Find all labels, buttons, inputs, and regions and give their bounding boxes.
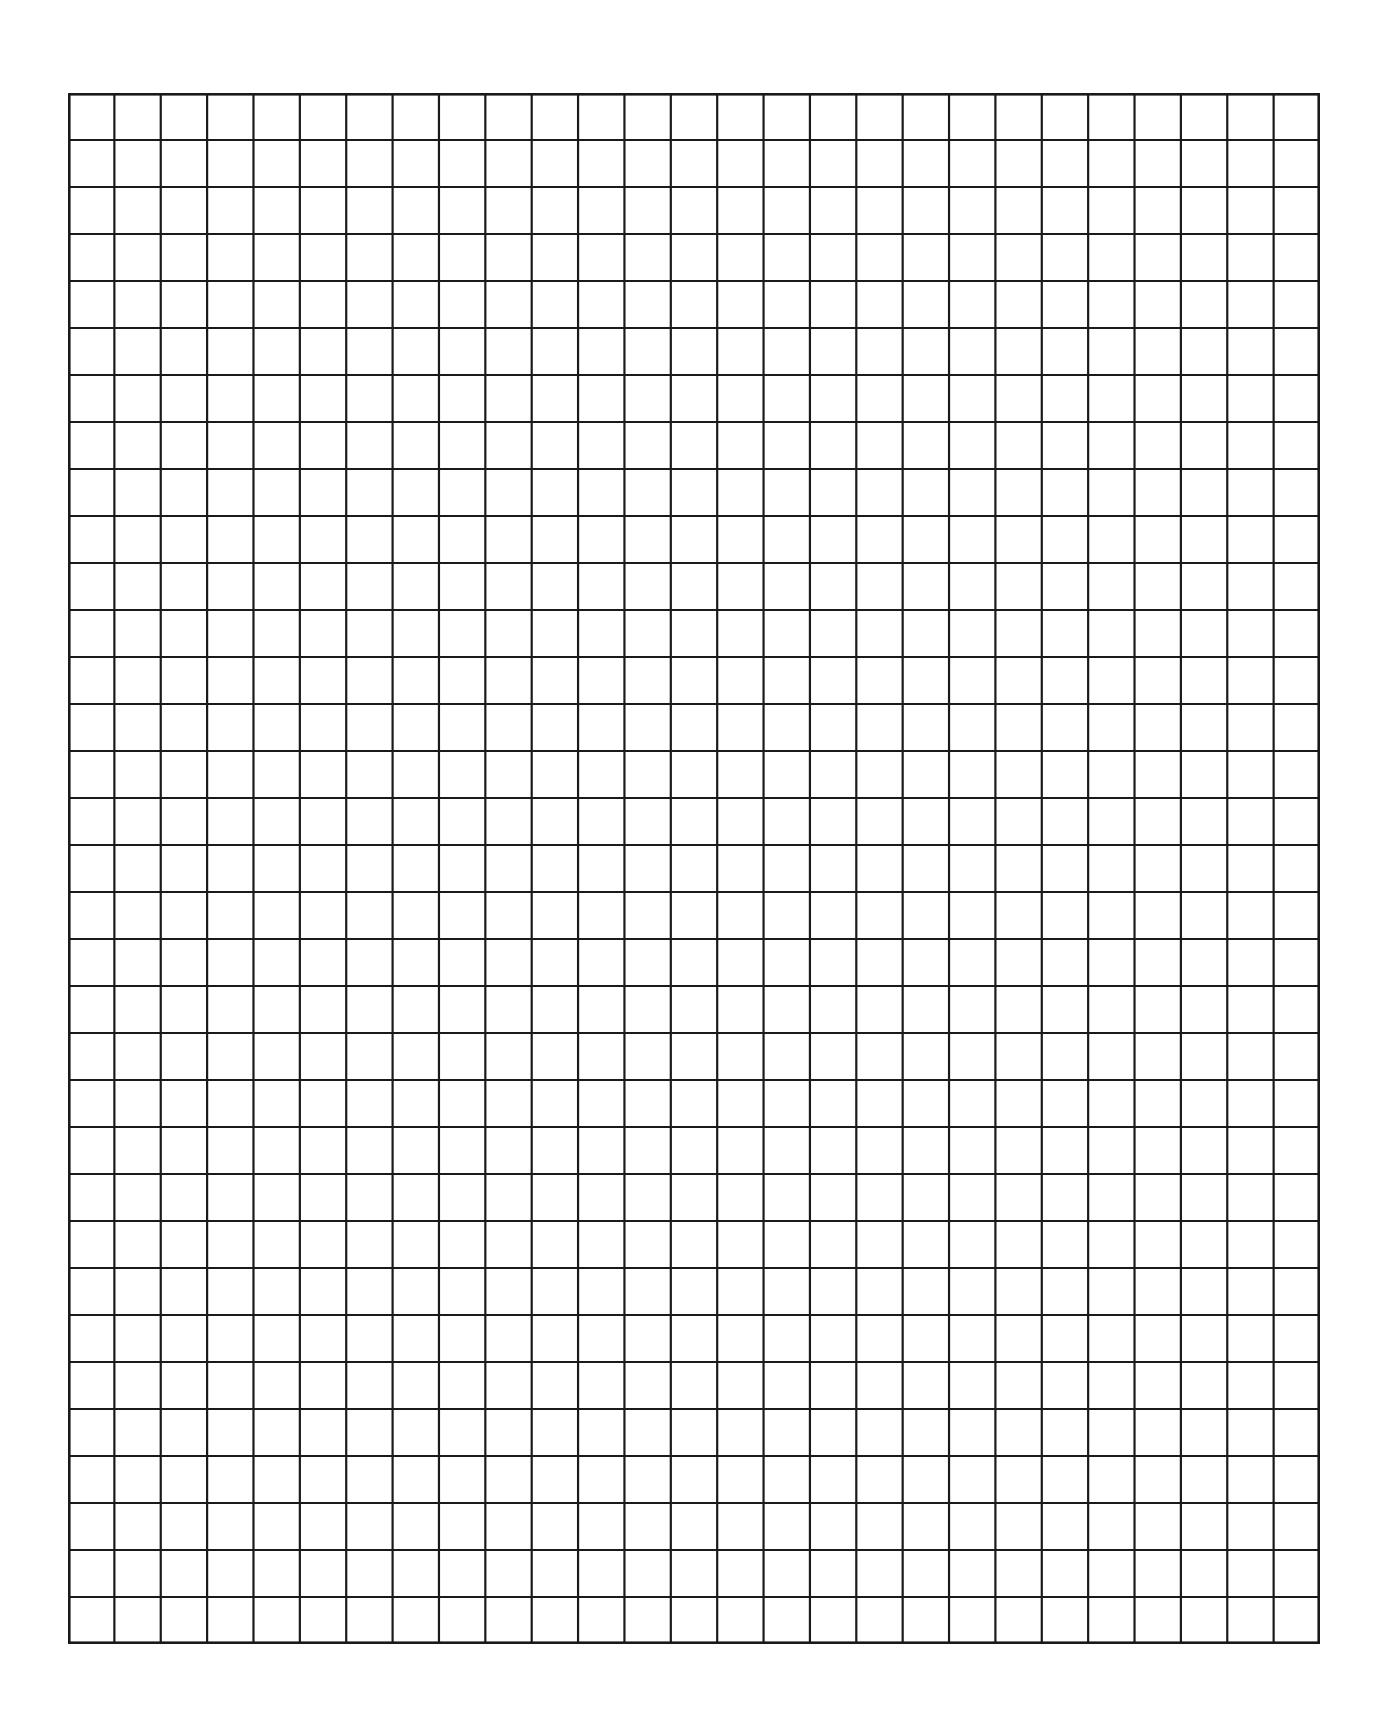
grid-border xyxy=(69,94,1318,1642)
graph-paper-grid xyxy=(68,93,1320,1644)
grid-lines xyxy=(68,93,1320,1644)
